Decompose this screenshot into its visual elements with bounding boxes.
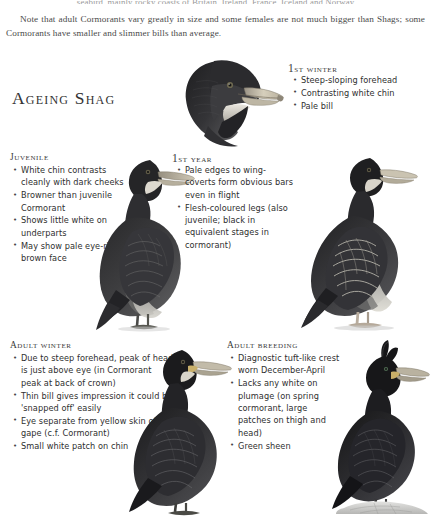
- bullets-first-year: Pale edges to wing-coverts form obvious …: [176, 164, 296, 252]
- list-item: Pale edges to wing-coverts form obvious …: [176, 164, 296, 201]
- bullets-adult-breeding: Diagnostic tuft-like crest worn December…: [229, 352, 341, 452]
- heading-first-year-rest: st year: [178, 154, 212, 164]
- first-winter-head-portrait: [178, 56, 286, 148]
- adult-winter-standing-bird: [126, 340, 244, 516]
- intro-paragraph: Note that adult Cormorants vary greatly …: [0, 12, 431, 40]
- clipped-running-text: seabird, mainly rocky coasts of Britain,…: [0, 0, 431, 4]
- heading-first-winter: 1st winter: [288, 62, 338, 74]
- heading-first-year: 1st year: [172, 152, 212, 164]
- list-item: Steep-sloping forehead: [292, 74, 427, 86]
- page-root: seabird, mainly rocky coasts of Britain,…: [0, 0, 431, 516]
- list-item: Lacks any white on plumage (on spring co…: [229, 377, 341, 439]
- page-title: Ageing Shag: [12, 88, 115, 109]
- heading-juvenile: Juvenile: [10, 152, 49, 162]
- bullets-first-winter: Steep-sloping forehead Contrasting white…: [292, 74, 427, 112]
- heading-first-winter-rest: st winter: [294, 64, 337, 74]
- heading-adult-winter: Adult winter: [10, 340, 72, 350]
- list-item: Flesh-coloured legs (also juvenile; blac…: [176, 202, 296, 252]
- adult-breeding-standing-bird: [330, 338, 431, 516]
- list-item: Pale bill: [292, 100, 427, 112]
- heading-adult-breeding: Adult breeding: [227, 340, 298, 350]
- list-item: Diagnostic tuft-like crest worn December…: [229, 352, 341, 377]
- list-item: Contrasting white chin: [292, 87, 427, 99]
- first-year-standing-bird: [296, 152, 431, 332]
- list-item: Green sheen: [229, 440, 341, 452]
